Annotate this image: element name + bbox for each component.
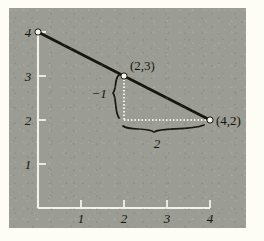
point-marker-4-2	[207, 117, 213, 123]
point-marker-2-3	[121, 73, 127, 79]
plot-svg: 4 3 2 1 1 2 3 4 (2,3)	[9, 8, 246, 228]
brace-rise	[113, 75, 119, 118]
y-tick-label-2: 2	[25, 113, 32, 128]
plot-panel: 4 3 2 1 1 2 3 4 (2,3)	[9, 8, 246, 228]
x-tick-label-2: 2	[121, 211, 128, 226]
y-tick-label-1: 1	[25, 157, 32, 172]
annotation-label-rise: −1	[91, 86, 106, 101]
x-tick-label-4: 4	[207, 211, 214, 226]
y-tick-label-4: 4	[25, 25, 32, 40]
x-tick-label-1: 1	[78, 211, 85, 226]
brace-run	[123, 125, 204, 132]
point-label-2-3: (2,3)	[130, 58, 155, 73]
figure-page: 4 3 2 1 1 2 3 4 (2,3)	[0, 0, 264, 241]
x-tick-label-3: 3	[163, 211, 171, 226]
annotation-label-run: 2	[154, 136, 161, 151]
y-tick-label-3: 3	[24, 69, 32, 84]
point-marker-0-4	[35, 29, 41, 35]
point-label-4-2: (4,2)	[216, 113, 241, 128]
